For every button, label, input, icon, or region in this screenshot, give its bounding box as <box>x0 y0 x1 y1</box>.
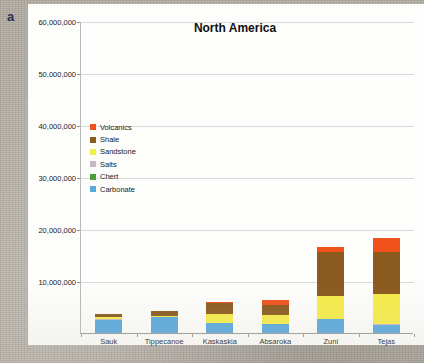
legend-swatch-carbonate <box>90 186 96 192</box>
legend-label: Shale <box>100 135 119 144</box>
gridline <box>81 22 414 23</box>
gridline <box>81 74 414 75</box>
legend-item: Carbonate <box>90 183 136 195</box>
legend-item: Chert <box>90 171 136 183</box>
x-tick-mark <box>81 334 82 337</box>
x-tick-label: Zuni <box>323 337 338 346</box>
bar-segment-shale <box>317 252 344 296</box>
gridline <box>81 282 414 283</box>
legend-swatch-shale <box>90 137 96 143</box>
x-tick-mark <box>192 334 193 337</box>
y-tick-label: 40,000,000 <box>38 122 76 131</box>
bar-kaskaskia <box>206 302 233 333</box>
y-tick-label: 50,000,000 <box>38 70 76 79</box>
chart-legend: VolcanicsShaleSandstoneSaltsChertCarbona… <box>90 121 136 195</box>
x-tick-label: Tejas <box>377 337 395 346</box>
bar-tippecanoe <box>151 311 178 333</box>
y-tick-label: 60,000,000 <box>38 18 76 27</box>
y-tick-label: 10,000,000 <box>38 278 76 287</box>
bar-segment-carbonate <box>373 325 400 333</box>
bar-tejas <box>373 238 400 333</box>
x-tick-label: Absaroka <box>259 337 291 346</box>
y-axis-labels: 10,000,00020,000,00030,000,00040,000,000… <box>0 22 76 334</box>
legend-item: Volcanics <box>90 121 136 133</box>
y-tick-label: 30,000,000 <box>38 174 76 183</box>
legend-label: Chert <box>100 172 118 181</box>
legend-swatch-volcanics <box>90 124 96 130</box>
x-tick-mark <box>303 334 304 337</box>
bar-segment-shale <box>206 303 233 314</box>
gridline <box>81 230 414 231</box>
bar-segment-carbonate <box>151 317 178 333</box>
bar-sauk <box>95 314 122 333</box>
y-tick-label: 20,000,000 <box>38 226 76 235</box>
bar-absaroka <box>262 300 289 333</box>
bar-segment-carbonate <box>317 319 344 333</box>
legend-swatch-chert <box>90 174 96 180</box>
bar-segment-sandstone <box>262 315 289 323</box>
bar-segment-shale <box>373 252 400 294</box>
bar-segment-carbonate <box>262 324 289 333</box>
bar-zuni <box>317 247 344 333</box>
legend-label: Volcanics <box>100 123 132 132</box>
bar-segment-carbonate <box>95 320 122 333</box>
legend-swatch-salts <box>90 161 96 167</box>
bar-segment-sandstone <box>373 294 400 324</box>
legend-label: Carbonate <box>100 185 135 194</box>
bar-segment-shale <box>262 305 289 315</box>
bar-segment-carbonate <box>206 323 233 333</box>
legend-label: Salts <box>100 160 117 169</box>
bar-segment-sandstone <box>317 296 344 319</box>
legend-item: Shale <box>90 133 136 145</box>
x-tick-label: Tippecanoe <box>145 337 184 346</box>
legend-item: Salts <box>90 158 136 170</box>
legend-item: Sandstone <box>90 146 136 158</box>
x-tick-label: Sauk <box>100 337 117 346</box>
bar-segment-volcanics <box>373 238 400 252</box>
legend-swatch-sandstone <box>90 149 96 155</box>
x-tick-mark <box>248 334 249 337</box>
x-tick-mark <box>359 334 360 337</box>
legend-label: Sandstone <box>100 147 136 156</box>
bar-segment-sandstone <box>206 314 233 323</box>
x-tick-mark <box>414 334 415 337</box>
x-tick-label: Kaskaskia <box>203 337 237 346</box>
x-tick-mark <box>137 334 138 337</box>
